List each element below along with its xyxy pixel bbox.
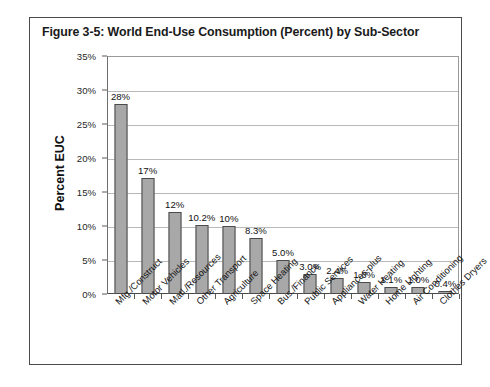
bar-group[interactable]: 3.0% (297, 56, 324, 294)
figure-frame: Figure 3-5: World End-Use Consumption (P… (29, 17, 462, 365)
y-tick-label: 0% (82, 289, 96, 300)
y-tick-label: 5% (82, 255, 96, 266)
bar-value-label: 12% (165, 199, 184, 210)
y-tick-label: 10% (77, 221, 96, 232)
y-tick-label: 20% (77, 153, 96, 164)
bar-series: 28%17%12%10.2%10%8.3%5.0%3.0%2.4%1.8%1.1… (107, 56, 459, 294)
bar-group[interactable]: 28% (107, 56, 134, 294)
bar-value-label: 10.2% (188, 212, 215, 223)
bar-value-label: 28% (111, 91, 130, 102)
x-tick-mark (459, 294, 460, 299)
bar[interactable] (114, 104, 127, 294)
bar-value-label: 17% (138, 165, 157, 176)
bar-value-label: 10% (219, 213, 238, 224)
y-tick-label: 30% (77, 85, 96, 96)
x-axis-labels: Mfg./ConstructMotor VehiclesMatl./Resour… (107, 299, 459, 379)
figure-title: Figure 3-5: World End-Use Consumption (P… (42, 25, 419, 39)
y-axis-ticks: 0%5%10%15%20%25%30%35% (30, 56, 107, 294)
y-tick-label: 35% (77, 51, 96, 62)
bar-value-label: 8.3% (245, 225, 267, 236)
y-tick-label: 25% (77, 119, 96, 130)
y-tick-label: 15% (77, 187, 96, 198)
